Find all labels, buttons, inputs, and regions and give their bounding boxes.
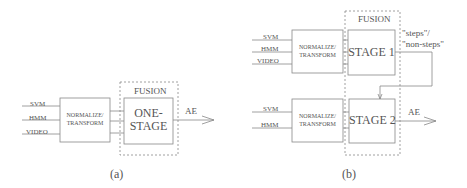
normalize-label: NORMALIZE/ [60,111,110,119]
decision-label: "steps"/ "non-steps" [402,28,444,50]
input-label-svm-b1: SVM [263,33,278,41]
caption-a: (a) [110,167,123,182]
one-stage-block: ONE- STAGE [124,107,173,133]
transform-label: TRANSFORM [292,120,343,128]
input-label-video-a: VIDEO [26,128,48,136]
diagram-lines [0,0,467,188]
normalize-label: NORMALIZE/ [292,112,343,120]
normalize-block-b2: NORMALIZE/ TRANSFORM [292,112,343,128]
decision-label-non-steps: "non-steps" [402,39,444,50]
normalize-block-a: NORMALIZE/ TRANSFORM [60,111,110,127]
output-label-ae-b: AE [408,107,420,117]
transform-label: TRANSFORM [292,51,343,59]
input-label-svm-b2: SVM [263,105,278,113]
input-label-video-b1: VIDEO [257,57,279,65]
input-label-hmm-a: HMM [29,114,47,122]
fusion-label-b: FUSION [358,14,391,24]
fusion-label-a: FUSION [134,86,167,96]
input-label-svm-a: SVM [30,100,45,108]
input-label-hmm-b1: HMM [261,45,279,53]
normalize-block-b1: NORMALIZE/ TRANSFORM [292,43,343,59]
stage-1-block: STAGE 1 [348,46,395,59]
input-label-hmm-b2: HMM [261,121,279,129]
transform-label: TRANSFORM [60,119,110,127]
caption-b: (b) [342,167,356,182]
output-label-ae-a: AE [185,106,197,116]
decision-label-steps: "steps"/ [402,28,444,39]
normalize-label: NORMALIZE/ [292,43,343,51]
stage-2-block: STAGE 2 [349,114,395,127]
stage-label: STAGE [124,120,173,133]
